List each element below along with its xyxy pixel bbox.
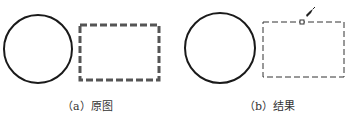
rectangle-dashed-thick [80, 25, 159, 80]
circle-result [185, 13, 255, 83]
caption-a: （a）原图 [62, 97, 113, 113]
cursor-icon [306, 7, 315, 17]
rectangle-dashed-thin [263, 22, 344, 77]
circle-original [4, 15, 72, 83]
panel-a: （a）原图 [0, 0, 176, 119]
pick-box-icon [300, 20, 304, 24]
caption-b: （b）结果 [244, 97, 295, 113]
panel-b: （b）结果 [176, 0, 352, 119]
